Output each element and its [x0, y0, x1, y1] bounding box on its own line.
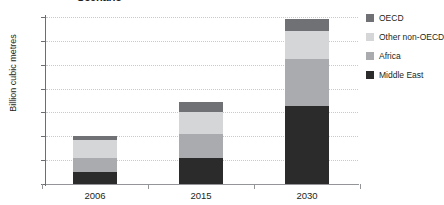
x-tick-mark-2006 [42, 184, 43, 189]
bar-segment-2030-oecd[interactable] [285, 19, 329, 31]
bar-segment-2030-middle-east[interactable] [285, 106, 329, 184]
bar-segment-2006-other-non-oecd[interactable] [73, 140, 117, 158]
legend-item-oecd[interactable]: OECD [366, 8, 442, 27]
chart-legend: OECD Other non-OECD Africa Middle East [366, 8, 442, 84]
bar-segment-2030-other-non-oecd[interactable] [285, 31, 329, 58]
bar-2015[interactable] [179, 102, 223, 184]
bar-segment-2030-africa[interactable] [285, 59, 329, 107]
y-tick-mark-200 [41, 136, 46, 137]
bar-segment-2015-africa[interactable] [179, 134, 223, 158]
legend-item-africa[interactable]: Africa [366, 46, 442, 65]
bar-2030[interactable] [285, 19, 329, 184]
y-tick-mark-300 [41, 112, 46, 113]
y-tick-mark-600 [41, 41, 46, 42]
y-tick-mark-400 [41, 89, 46, 90]
legend-swatch-oecd [366, 14, 374, 22]
y-axis-title: Billion cubic metres [8, 13, 18, 133]
legend-item-middle-east[interactable]: Middle East [366, 65, 442, 84]
legend-label-other-non-oecd: Other non-OECD [379, 32, 444, 42]
y-tick-mark-500 [41, 65, 46, 66]
bar-segment-2015-middle-east[interactable] [179, 158, 223, 184]
legend-label-africa: Africa [379, 51, 401, 61]
bar-segment-2006-africa[interactable] [73, 158, 117, 172]
x-tick-mark-end [360, 184, 361, 189]
x-tick-label-2030: 2030 [277, 190, 337, 201]
legend-label-oecd: OECD [379, 13, 404, 23]
y-tick-mark-100 [41, 160, 46, 161]
plot-area [46, 17, 358, 184]
x-tick-mark-2015 [148, 184, 149, 189]
x-tick-mark-2030 [254, 184, 255, 189]
legend-item-other-non-oecd[interactable]: Other non-OECD [366, 27, 442, 46]
bar-segment-2015-other-non-oecd[interactable] [179, 112, 223, 134]
legend-label-middle-east: Middle East [379, 70, 423, 80]
x-axis-line [45, 184, 359, 185]
chart-title: Scenario [77, 0, 122, 3]
legend-swatch-other-non-oecd [366, 33, 374, 41]
legend-swatch-africa [366, 52, 374, 60]
x-tick-label-2006: 2006 [65, 190, 125, 201]
x-tick-label-2015: 2015 [171, 190, 231, 201]
bar-segment-2015-oecd[interactable] [179, 102, 223, 112]
y-tick-mark-700 [41, 17, 46, 18]
bar-2006[interactable] [73, 136, 117, 184]
bar-segment-2006-middle-east[interactable] [73, 172, 117, 184]
legend-swatch-middle-east [366, 71, 374, 79]
